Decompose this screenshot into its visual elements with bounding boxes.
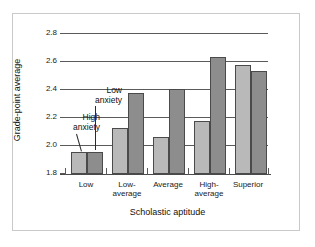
y-tick-2.4: 2.4 bbox=[33, 85, 57, 93]
leader-line-low-anxiety bbox=[95, 106, 96, 150]
x-tick-superior: Superior bbox=[224, 180, 272, 189]
annotation-high-anxiety: High anxiety bbox=[56, 112, 100, 132]
x-tick-high-average-line2: average bbox=[185, 189, 233, 198]
y-tick-2.2: 2.2 bbox=[33, 113, 57, 121]
group-separator-2 bbox=[147, 168, 148, 175]
group-separator-4 bbox=[229, 168, 230, 175]
chart-figure: 2.8 2.6 2.4 2.2 2.0 1.8 bbox=[0, 0, 315, 247]
y-tick-2.6: 2.6 bbox=[33, 57, 57, 65]
annotation-high-anxiety-line1: High bbox=[56, 112, 100, 122]
y-tick-1.8: 1.8 bbox=[33, 169, 57, 177]
bar-high-average-high-anxiety bbox=[194, 121, 210, 174]
y-axis-title: Grade-point average bbox=[12, 40, 22, 160]
bar-average-low-anxiety bbox=[169, 89, 185, 174]
bar-high-average-low-anxiety bbox=[210, 57, 226, 174]
bar-low-average-low-anxiety bbox=[128, 93, 144, 174]
y-tick-2.0: 2.0 bbox=[33, 141, 57, 149]
y-tick-2.8: 2.8 bbox=[33, 29, 57, 37]
x-tick-low-average-line2: average bbox=[103, 189, 151, 198]
annotation-low-anxiety-line2: anxiety bbox=[78, 95, 122, 105]
bar-superior-high-anxiety bbox=[235, 65, 251, 174]
bar-superior-low-anxiety bbox=[251, 71, 267, 174]
group-separator-1 bbox=[106, 168, 107, 175]
x-axis-baseline bbox=[60, 174, 271, 175]
group-separator-3 bbox=[188, 168, 189, 175]
annotation-high-anxiety-line2: anxiety bbox=[56, 122, 100, 132]
bar-average-high-anxiety bbox=[153, 137, 169, 174]
bar-low-high-anxiety bbox=[71, 152, 87, 174]
x-tick-superior-line1: Superior bbox=[224, 180, 272, 189]
group-separator-5 bbox=[268, 168, 269, 175]
x-axis-title: Scholastic aptitude bbox=[60, 207, 275, 217]
annotation-low-anxiety: Low anxiety bbox=[78, 85, 122, 105]
gridline-2.8 bbox=[65, 33, 268, 34]
bar-low-low-anxiety bbox=[87, 152, 103, 174]
bar-low-average-high-anxiety bbox=[112, 128, 128, 174]
gridline-2.6 bbox=[65, 61, 268, 62]
group-separator-0 bbox=[65, 168, 66, 175]
annotation-low-anxiety-line1: Low bbox=[78, 85, 122, 95]
